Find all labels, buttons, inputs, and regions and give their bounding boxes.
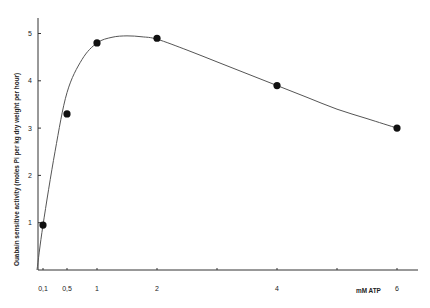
y-tick-label: 4	[28, 77, 32, 84]
x-tick-label: 2	[155, 285, 159, 292]
y-tick-label: 1	[28, 219, 32, 226]
y-tick-label: 2	[28, 172, 32, 179]
data-point	[153, 35, 160, 42]
y-tick-label: 3	[28, 125, 32, 132]
data-point	[93, 39, 100, 46]
x-tick-label: 6	[395, 285, 399, 292]
x-axis-title: mM ATP	[356, 287, 382, 294]
data-point	[273, 82, 280, 89]
y-axis-title: Ouabain sensitive activity (moles Pi per…	[13, 73, 21, 266]
axes: 0,10,51246 12345	[28, 18, 418, 292]
x-tick-label: 0,1	[38, 285, 48, 292]
x-ticks: 0,10,51246	[38, 268, 399, 292]
data-point	[63, 110, 70, 117]
data-point	[39, 221, 46, 228]
x-tick-label: 0,5	[62, 285, 72, 292]
chart: 0,10,51246 12345 mM ATP Ouabain sensitiv…	[0, 0, 430, 308]
y-tick-label: 5	[28, 30, 32, 37]
data-points	[39, 35, 400, 229]
x-tick-label: 4	[275, 285, 279, 292]
fitted-curve	[37, 36, 397, 270]
x-tick-label: 1	[95, 285, 99, 292]
data-point	[393, 125, 400, 132]
y-ticks: 12345	[28, 30, 41, 226]
